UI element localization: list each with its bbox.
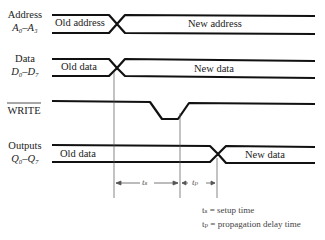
propagation-delay-label: tₚ: [192, 177, 198, 187]
legend-propagation-delay: tₚ = propagation delay time: [202, 219, 301, 229]
outputs-new-value: New data: [245, 149, 285, 160]
legend-setup-time: tₛ = setup time: [202, 205, 254, 215]
setup-time-label: tₛ: [142, 177, 148, 187]
data-new-value: New data: [194, 63, 234, 74]
write-label: WRITE: [2, 104, 46, 117]
data-label: Data D₀–D₇: [2, 52, 48, 78]
address-new-value: New address: [188, 18, 242, 29]
write-waveform: [52, 101, 315, 119]
outputs-old-value: Old data: [60, 148, 96, 159]
data-old-value: Old data: [61, 61, 97, 72]
timing-diagram: [0, 0, 325, 240]
outputs-label: Outputs Q₀–Q₇: [2, 139, 48, 165]
address-label: Address A₀–A₃: [2, 8, 48, 34]
address-old-value: Old address: [55, 17, 105, 28]
